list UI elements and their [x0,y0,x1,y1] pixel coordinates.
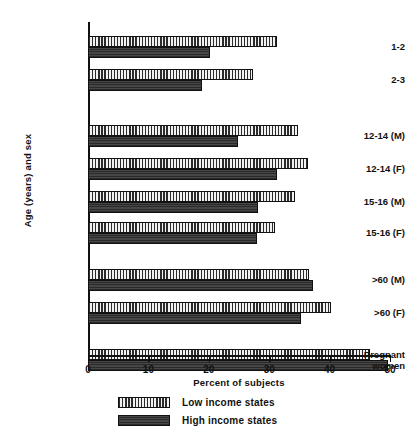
plot-area [88,22,390,355]
x-tick [390,355,391,362]
x-tick [330,355,331,362]
bar-segment [88,36,277,47]
bar-segment [88,280,313,291]
bar-segment [88,233,257,244]
bar-segment [88,69,253,80]
bar-segment [88,222,275,233]
x-tick [88,355,89,362]
bar-segment [88,47,210,58]
legend-swatch-low-income [118,397,170,408]
category-label: 15-16 (F) [323,228,411,239]
legend-label-low-income: Low income states [182,396,275,409]
x-tick-label: 0 [85,364,91,375]
bar-segment [88,125,298,136]
category-label: 1-2 [323,42,411,53]
bar-chart: Age (years) and sex 1-22-312-14 (M)12-14… [0,0,411,442]
bar-segment [88,136,238,147]
bar-segment [88,158,308,169]
y-axis-title: Age (years) and sex [22,91,33,271]
legend-label-high-income: High income states [182,414,277,427]
category-label: 12-14 (F) [323,164,411,175]
x-tick-label: 50 [384,364,395,375]
x-tick-label: 40 [324,364,335,375]
category-label: 2-3 [323,75,411,86]
x-axis-line [88,355,390,357]
x-tick [269,355,270,362]
bar-segment [88,191,295,202]
category-label: 12-14 (M) [323,131,411,142]
x-tick-label: 30 [264,364,275,375]
x-tick [209,355,210,362]
bar-segment [88,313,301,324]
category-label: 15-16 (M) [323,197,411,208]
x-tick [148,355,149,362]
bar-segment [88,202,258,213]
x-tick-label: 20 [203,364,214,375]
bar-segment [88,80,202,91]
category-label: >60 (F) [323,308,411,319]
bar-segment [88,269,309,280]
x-tick-label: 10 [143,364,154,375]
category-label: Pregnant women [323,350,411,371]
legend-swatch-high-income [118,415,170,426]
bar-segment [88,169,277,180]
x-axis-title: Percent of subjects [88,377,390,388]
category-label: >60 (M) [323,275,411,286]
bar-segment [88,302,331,313]
